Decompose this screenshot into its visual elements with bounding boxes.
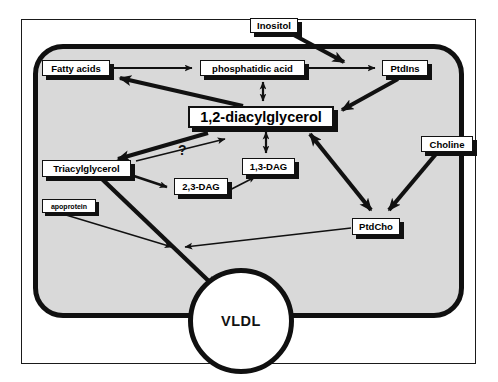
node-inositol-label: Inositol: [257, 20, 291, 31]
node-phosphatidic-acid[interactable]: phosphatidic acid: [200, 60, 305, 76]
node-ptdins-label: PtdIns: [390, 63, 419, 74]
node-ptdcho-label: PtdCho: [359, 221, 393, 232]
node-choline-label: Choline: [430, 139, 465, 150]
node-one-three-dag-label: 1,3-DAG: [250, 161, 287, 172]
node-vldl[interactable]: VLDL: [188, 268, 294, 374]
node-triacylglycerol[interactable]: Triacylglycerol: [42, 160, 131, 177]
node-two-three-dag[interactable]: 2,3-DAG: [174, 178, 228, 195]
edge-diacylglycerol-to-fatty-acids: [120, 78, 243, 106]
node-triacylglycerol-label: Triacylglycerol: [53, 163, 120, 174]
node-diacylglycerol[interactable]: 1,2-diacylglycerol: [188, 106, 334, 128]
node-two-three-dag-label: 2,3-DAG: [182, 181, 219, 192]
edge-inositol-to-ptdins: [292, 34, 344, 62]
node-vldl-label: VLDL: [221, 313, 261, 329]
edge-ptdins-to-diacylglycerol: [342, 79, 398, 110]
node-one-three-dag[interactable]: 1,3-DAG: [242, 158, 295, 175]
node-inositol[interactable]: Inositol: [250, 18, 298, 33]
node-apoprotein[interactable]: apoprotein: [42, 199, 96, 213]
edge-triacylglycerol-to-vldl: [102, 179, 216, 288]
node-fatty-acids-label: Fatty acids: [51, 63, 101, 74]
edge-uncertainty-marker: ?: [178, 142, 187, 158]
node-phosphatidic-acid-label: phosphatidic acid: [212, 63, 293, 74]
edge-diacylglycerol-to-ptdcho: [310, 134, 371, 210]
node-fatty-acids[interactable]: Fatty acids: [42, 60, 110, 76]
node-choline[interactable]: Choline: [421, 136, 473, 152]
edge-choline-to-ptdcho: [389, 154, 436, 210]
edge-triacylglycerol-to-two-three-dag: [134, 176, 167, 187]
node-apoprotein-label: apoprotein: [51, 203, 87, 210]
diagram-canvas: VLDL Inositol Fatty acids phosphatidic a…: [0, 0, 498, 382]
edge-ptdcho-to-vldl: [185, 228, 351, 247]
node-ptdcho[interactable]: PtdCho: [352, 218, 400, 235]
node-diacylglycerol-label: 1,2-diacylglycerol: [200, 109, 322, 125]
node-ptdins[interactable]: PtdIns: [382, 60, 428, 76]
